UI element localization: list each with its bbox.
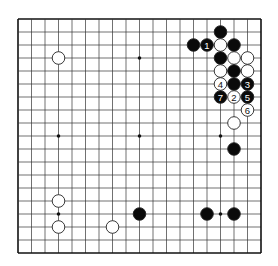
black-stone[interactable] xyxy=(133,208,146,221)
white-stone[interactable] xyxy=(52,195,65,208)
move-number-label: 3 xyxy=(245,79,250,90)
hoshi-point xyxy=(138,134,142,138)
black-stone[interactable] xyxy=(187,39,200,52)
hoshi-point xyxy=(57,134,61,138)
white-stone[interactable] xyxy=(228,52,241,65)
black-stone[interactable] xyxy=(228,65,241,78)
move-number-label: 6 xyxy=(245,105,250,116)
move-number-label: 2 xyxy=(231,92,236,103)
white-stone[interactable] xyxy=(241,52,254,65)
white-stone[interactable] xyxy=(52,221,65,234)
black-stone[interactable] xyxy=(228,39,241,52)
white-stone-move-4[interactable]: 4 xyxy=(214,78,227,91)
white-stone-move-6[interactable]: 6 xyxy=(241,104,254,117)
black-stone[interactable] xyxy=(228,208,241,221)
black-stone-move-5[interactable]: 5 xyxy=(241,91,254,104)
move-number-label: 1 xyxy=(204,40,209,51)
hoshi-point xyxy=(219,212,223,216)
move-number-label: 5 xyxy=(245,92,250,103)
hoshi-point xyxy=(57,212,61,216)
move-number-label: 4 xyxy=(218,79,223,90)
white-stone[interactable] xyxy=(106,221,119,234)
move-number-label: 7 xyxy=(218,92,223,103)
white-stone-move-2[interactable]: 2 xyxy=(228,91,241,104)
white-stone[interactable] xyxy=(228,117,241,130)
black-stone[interactable] xyxy=(228,143,241,156)
black-stone-move-3[interactable]: 3 xyxy=(241,78,254,91)
go-board: 1437256 xyxy=(0,0,278,266)
white-stone[interactable] xyxy=(214,65,227,78)
hoshi-point xyxy=(219,134,223,138)
white-stone[interactable] xyxy=(52,52,65,65)
white-stone[interactable] xyxy=(214,39,227,52)
black-stone[interactable] xyxy=(201,208,214,221)
black-stone[interactable] xyxy=(214,52,227,65)
black-stone-move-7[interactable]: 7 xyxy=(214,91,227,104)
white-stone[interactable] xyxy=(241,65,254,78)
black-stone-move-1[interactable]: 1 xyxy=(201,39,214,52)
hoshi-point xyxy=(138,56,142,60)
black-stone[interactable] xyxy=(214,26,227,39)
black-stone[interactable] xyxy=(228,78,241,91)
